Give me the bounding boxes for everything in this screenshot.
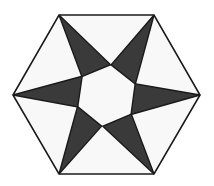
figure-canvas: Six-pointed pinwheel star inscribed in a…	[0, 0, 214, 186]
hexagon-pinwheel-figure: Six-pointed pinwheel star inscribed in a…	[0, 0, 214, 186]
